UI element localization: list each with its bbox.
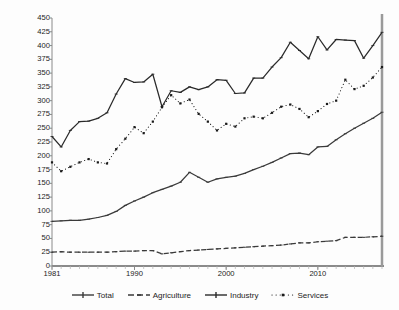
legend-swatch-industry bbox=[204, 290, 228, 300]
x-tick-label: 2010 bbox=[309, 269, 326, 278]
data-point-services bbox=[243, 117, 245, 119]
legend-item-agriculture[interactable]: Agriculture bbox=[127, 290, 191, 300]
data-point-services bbox=[280, 106, 282, 108]
legend-label-agriculture: Agriculture bbox=[153, 291, 191, 300]
data-point-services bbox=[308, 116, 310, 118]
data-point-services bbox=[97, 161, 99, 163]
data-point-services bbox=[207, 121, 209, 123]
data-point-services bbox=[317, 110, 319, 112]
x-tick-label: 1981 bbox=[44, 269, 61, 278]
legend-swatch-services bbox=[271, 290, 295, 300]
data-point-services bbox=[60, 170, 62, 172]
data-point-services bbox=[372, 76, 374, 78]
data-point-services bbox=[253, 116, 255, 118]
data-point-services bbox=[216, 129, 218, 131]
data-point-services bbox=[143, 132, 145, 134]
legend-swatch-total bbox=[71, 290, 95, 300]
data-point-services bbox=[51, 161, 53, 163]
data-point-services bbox=[344, 79, 346, 81]
data-point-services bbox=[198, 113, 200, 115]
data-point-services bbox=[88, 158, 90, 160]
plot-area bbox=[0, 0, 399, 310]
legend-swatch-agriculture bbox=[127, 290, 151, 300]
x-tick-label: 1990 bbox=[126, 269, 143, 278]
data-point-services bbox=[234, 125, 236, 127]
data-point-services bbox=[115, 148, 117, 150]
data-point-services bbox=[262, 117, 264, 119]
data-point-services bbox=[69, 166, 71, 168]
data-point-services bbox=[170, 94, 172, 96]
legend-item-total[interactable]: Total bbox=[71, 290, 114, 300]
legend-label-industry: Industry bbox=[230, 291, 258, 300]
data-point-services bbox=[326, 103, 328, 105]
legend-item-industry[interactable]: Industry bbox=[204, 290, 258, 300]
data-point-services bbox=[353, 88, 355, 90]
data-point-services bbox=[289, 103, 291, 105]
data-point-services bbox=[381, 66, 383, 68]
data-point-services bbox=[133, 126, 135, 128]
series-line-services bbox=[52, 67, 382, 171]
data-point-services bbox=[298, 108, 300, 110]
chart-container: Real VA/worker 0255075100125150175200225… bbox=[0, 0, 399, 310]
x-tick-label: 2000 bbox=[218, 269, 235, 278]
data-point-services bbox=[225, 123, 227, 125]
data-point-services bbox=[161, 106, 163, 108]
data-point-services bbox=[335, 100, 337, 102]
legend-label-services: Services bbox=[297, 291, 328, 300]
legend-label-total: Total bbox=[97, 291, 114, 300]
data-point-services bbox=[363, 85, 365, 87]
data-point-services bbox=[179, 102, 181, 104]
data-point-services bbox=[188, 98, 190, 100]
data-point-services bbox=[271, 112, 273, 114]
series-line-total bbox=[52, 112, 382, 221]
data-point-services bbox=[78, 161, 80, 163]
data-point-services bbox=[152, 121, 154, 123]
data-point-services bbox=[124, 138, 126, 140]
chart-legend: TotalAgricultureIndustryServices bbox=[0, 287, 399, 303]
x-axis-tick-labels: 1981199020002010 bbox=[0, 269, 399, 283]
series-line-agriculture bbox=[52, 236, 382, 254]
data-point-services bbox=[106, 162, 108, 164]
legend-item-services[interactable]: Services bbox=[271, 290, 328, 300]
